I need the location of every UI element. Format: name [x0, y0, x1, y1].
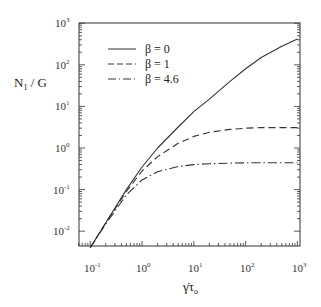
data-curves [90, 39, 297, 248]
x-tick-labels: 10-1 100 101 102 103 [84, 261, 307, 274]
x-tick-label: 100 [136, 261, 151, 274]
legend-label: β = 0 [145, 42, 170, 56]
y-tick-label: 102 [55, 58, 70, 71]
x-tick-label: 101 [188, 261, 203, 274]
y-tick-label: 10-1 [53, 183, 70, 196]
legend-label: β = 4.6 [145, 72, 179, 86]
x-axis-label: γ̇τo [182, 279, 198, 296]
x-tick-label: 102 [240, 261, 255, 274]
x-tick-label: 10-1 [84, 261, 101, 274]
chart-canvas: 10-1 100 101 102 103 103 102 101 100 10-… [0, 0, 321, 307]
curve-solid [90, 39, 297, 248]
curve-dash-dot [90, 163, 297, 248]
curve-dashed [90, 128, 297, 248]
legend-label: β = 1 [145, 57, 170, 71]
y-axis-label: N1 / G [14, 75, 47, 92]
y-tick-label: 100 [55, 141, 70, 154]
y-tick-label: 10-2 [53, 224, 70, 237]
y-tick-labels: 103 102 101 100 10-1 10-2 [53, 16, 70, 237]
x-tick-label: 103 [292, 261, 307, 274]
y-tick-label: 101 [55, 99, 70, 112]
legend: β = 0 β = 1 β = 4.6 [108, 42, 179, 86]
y-tick-label: 103 [55, 16, 70, 29]
